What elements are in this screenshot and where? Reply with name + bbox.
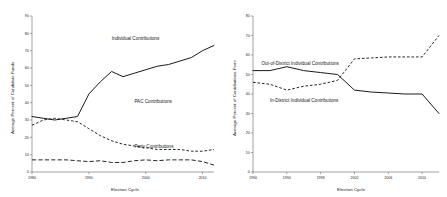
x-tick-label: 1980: [28, 176, 36, 180]
x-tick-label: 2010: [418, 176, 426, 180]
left-y-axis-title: Average Percent of Candidate Funds: [10, 61, 15, 134]
x-tick-label: 1994: [283, 176, 291, 180]
series-label: Individual Contributions: [112, 36, 160, 41]
left-data-lines: [32, 45, 214, 165]
data-series-line: [32, 160, 214, 165]
y-tick-label: 90: [25, 14, 29, 18]
y-tick-label: 60: [25, 66, 29, 70]
figure-two-panel-line-charts: 0102030405060708090 1980199020002010 Ind…: [0, 0, 447, 197]
data-series-line: [253, 67, 439, 114]
series-label: PAC Contributions: [134, 99, 172, 104]
left-y-tick-labels: 0102030405060708090: [25, 14, 29, 174]
y-tick-label: 0: [27, 170, 29, 174]
right-x-axis-title: Election Cycle: [337, 187, 365, 192]
x-tick-label: 1990: [249, 176, 257, 180]
left-chart-svg: 0102030405060708090 1980199020002010 Ind…: [0, 0, 223, 197]
y-tick-label: 70: [246, 34, 250, 38]
x-tick-label: 2010: [199, 176, 207, 180]
series-label: In-District Individual Contributions: [270, 98, 339, 103]
y-tick-label: 20: [25, 136, 29, 140]
y-tick-label: 50: [246, 73, 250, 77]
y-tick-label: 80: [25, 32, 29, 36]
y-tick-label: 30: [246, 112, 250, 116]
series-label: Out-of-District Individual Contributions: [261, 61, 339, 66]
y-tick-label: 30: [25, 118, 29, 122]
right-x-tick-labels: 199019941998200220062010: [249, 176, 426, 180]
x-tick-label: 1998: [317, 176, 325, 180]
y-tick-label: 70: [25, 49, 29, 53]
y-tick-label: 20: [246, 131, 250, 135]
right-series-labels: Out-of-District Individual Contributions…: [261, 61, 339, 103]
chart-panel-left: 0102030405060708090 1980199020002010 Ind…: [0, 0, 223, 197]
y-tick-label: 80: [246, 14, 250, 18]
right-chart-svg: 01020304050607080 1990199419982002200620…: [223, 0, 447, 197]
chart-panel-right: 01020304050607080 1990199419982002200620…: [223, 0, 446, 197]
left-x-tick-labels: 1980199020002010: [28, 176, 207, 180]
y-tick-label: 10: [246, 151, 250, 155]
y-tick-label: 50: [25, 84, 29, 88]
series-label: Party Contributions: [134, 144, 174, 149]
y-tick-label: 0: [248, 170, 250, 174]
y-tick-label: 10: [25, 153, 29, 157]
left-x-axis-title: Election Cycle: [111, 187, 139, 192]
left-series-labels: Individual ContributionsPAC Contribution…: [112, 36, 175, 148]
x-tick-label: 2002: [350, 176, 358, 180]
y-tick-label: 60: [246, 53, 250, 57]
right-y-axis-title: Average Percent of Contributions From: [232, 60, 237, 136]
right-axes: [251, 16, 439, 174]
right-y-tick-labels: 01020304050607080: [246, 14, 250, 174]
y-tick-label: 40: [25, 101, 29, 105]
data-series-line: [32, 45, 214, 120]
y-tick-label: 40: [246, 92, 250, 96]
x-tick-label: 2006: [384, 176, 392, 180]
x-tick-label: 2000: [142, 176, 150, 180]
data-series-line: [32, 118, 214, 151]
x-tick-label: 1990: [85, 176, 93, 180]
